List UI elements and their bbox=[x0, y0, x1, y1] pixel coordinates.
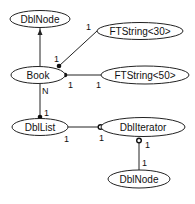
edge-dbliterator-dblnode bbox=[137, 138, 142, 170]
multiplicity-label: 1 bbox=[64, 134, 69, 144]
node-label: FTString<30> bbox=[109, 26, 170, 37]
multiplicity-label: 1 bbox=[96, 80, 101, 90]
node-dbliterator[interactable]: DblIterator bbox=[101, 118, 185, 137]
node-label: DblIterator bbox=[120, 122, 167, 133]
node-dblnode-top[interactable]: DblNode bbox=[10, 11, 70, 28]
filled-dot-icon bbox=[57, 64, 62, 69]
multiplicity-label: N bbox=[42, 86, 49, 96]
multiplicity-label: 1 bbox=[86, 22, 91, 32]
node-dbllist[interactable]: DblList bbox=[12, 119, 68, 136]
node-dblnode-bottom[interactable]: DblNode bbox=[108, 170, 170, 188]
diagram-canvas: DblNode FTString<30> Book FTString<50> D… bbox=[0, 0, 195, 204]
arrowhead-icon bbox=[38, 29, 43, 35]
open-circle-icon bbox=[137, 138, 142, 143]
multiplicity-label: 1 bbox=[145, 140, 150, 150]
edge-dbllist-dbliterator bbox=[68, 125, 103, 130]
edge-book-ftstring30 bbox=[57, 31, 97, 68]
multiplicity-label: 1 bbox=[142, 158, 147, 168]
multiplicity-label: 1 bbox=[99, 133, 104, 143]
node-label: Book bbox=[27, 70, 51, 81]
multiplicity-label: 1 bbox=[54, 54, 59, 64]
node-ftstring50[interactable]: FTString<50> bbox=[101, 66, 189, 84]
edge-book-dblnode-top bbox=[38, 28, 43, 66]
multiplicity-label: 1 bbox=[44, 108, 49, 118]
node-book[interactable]: Book bbox=[11, 67, 65, 84]
node-label: DblNode bbox=[120, 174, 159, 185]
multiplicity-label: 1 bbox=[68, 80, 73, 90]
node-label: DblList bbox=[25, 122, 56, 133]
node-label: DblNode bbox=[21, 14, 60, 25]
edge-book-ftstring50 bbox=[63, 73, 101, 78]
node-label: FTString<50> bbox=[114, 70, 175, 81]
node-ftstring30[interactable]: FTString<30> bbox=[97, 23, 183, 40]
